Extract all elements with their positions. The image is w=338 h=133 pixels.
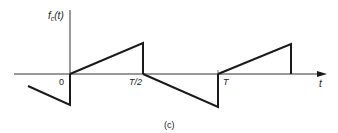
y-axis-label: fc(t) <box>48 11 64 22</box>
x-axis-label: t <box>319 79 322 89</box>
waveform-ramp-2 <box>143 74 218 107</box>
waveform-ramp-3 <box>218 44 291 74</box>
y-label-arg: (t) <box>54 10 63 21</box>
tick-label-half-period: T/2 <box>129 78 142 87</box>
figure-caption: (c) <box>164 121 175 130</box>
x-axis-arrowhead-icon <box>317 71 327 77</box>
tick-label-period: T <box>223 78 229 87</box>
tick-label-origin: 0 <box>59 78 64 87</box>
figure-canvas: fc(t) 0 T/2 T t (c) <box>0 0 338 133</box>
waveform-ramp-1 <box>70 43 143 74</box>
